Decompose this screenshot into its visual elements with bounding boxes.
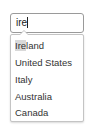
suggestion-rest: land (26, 40, 44, 51)
text-cursor (27, 17, 28, 28)
suggestion-list: Ireland United States Italy Australia Ca… (10, 34, 84, 122)
input-text: ire (16, 17, 27, 28)
suggestion-label: Italy (15, 74, 32, 85)
suggestion-label: United States (15, 57, 72, 68)
suggestion-item-united-states[interactable]: United States (15, 55, 72, 70)
suggestion-label: Australia (15, 91, 52, 102)
suggestion-item-canada[interactable]: Canada (15, 105, 48, 120)
input-value: ire (16, 17, 28, 29)
suggestion-label: Canada (15, 107, 48, 118)
suggestion-item-australia[interactable]: Australia (15, 89, 52, 104)
dropdown-pointer-fill (20, 31, 28, 35)
suggestion-item-ireland[interactable]: Ireland (15, 38, 44, 53)
match-highlight: Ire (15, 40, 26, 51)
suggestion-item-italy[interactable]: Italy (15, 72, 32, 87)
